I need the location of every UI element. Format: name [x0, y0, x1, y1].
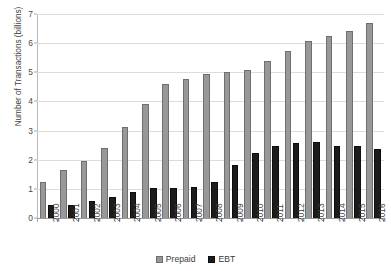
bar-prepaid-2013: [305, 41, 312, 219]
bar-group-2003: [98, 15, 118, 219]
bar-prepaid-2014: [326, 36, 333, 219]
bar-group-2016: [364, 15, 384, 219]
bar-prepaid-2010: [244, 70, 251, 220]
bar-group-2014: [323, 15, 343, 219]
bar-group-2013: [302, 15, 322, 219]
bar-group-2011: [262, 15, 282, 219]
x-tick-label-2006: 2006: [173, 203, 183, 222]
legend-entry-prepaid[interactable]: Prepaid: [156, 254, 196, 264]
legend-label-ebt: EBT: [218, 254, 235, 264]
bars-layer: [37, 15, 384, 219]
bar-group-2012: [282, 15, 302, 219]
prepaid-swatch-icon: [156, 256, 163, 263]
x-tick-label-2016: 2016: [377, 203, 387, 222]
legend-label-prepaid: Prepaid: [166, 254, 196, 264]
bar-group-2008: [200, 15, 220, 219]
x-tick-label-2000: 2000: [51, 203, 61, 222]
bar-prepaid-2003: [101, 148, 108, 219]
bar-group-2009: [221, 15, 241, 219]
chart-title: [28, 0, 368, 3]
x-tick-label-2008: 2008: [214, 203, 224, 222]
bar-prepaid-2011: [264, 61, 271, 219]
x-tick-label-2004: 2004: [132, 203, 142, 222]
x-tick-label-2012: 2012: [296, 203, 306, 222]
bar-prepaid-2001: [60, 170, 67, 219]
legend-entry-ebt[interactable]: EBT: [208, 254, 235, 264]
y-tick-label-3: 3: [28, 126, 33, 136]
bar-prepaid-2008: [203, 74, 210, 219]
x-axis-line: [37, 218, 384, 219]
bar-prepaid-2012: [285, 51, 292, 219]
y-tick-label-6: 6: [28, 38, 33, 48]
bar-prepaid-2016: [366, 23, 373, 219]
ebt-swatch-icon: [208, 256, 215, 263]
x-tick-label-2002: 2002: [92, 203, 102, 222]
bar-group-2000: [37, 15, 57, 219]
bar-group-2010: [241, 15, 261, 219]
y-tick-label-7: 7: [28, 9, 33, 19]
x-tick-label-2003: 2003: [112, 203, 122, 222]
bar-prepaid-2006: [162, 84, 169, 219]
y-tick-label-1: 1: [28, 184, 33, 194]
x-tick-label-2013: 2013: [316, 203, 326, 222]
bar-group-2002: [78, 15, 98, 219]
bar-prepaid-2015: [346, 31, 353, 219]
bar-prepaid-2002: [81, 161, 88, 219]
bar-prepaid-2000: [40, 182, 47, 219]
x-tick-label-2011: 2011: [275, 204, 285, 222]
y-tick-label-5: 5: [28, 67, 33, 77]
bar-group-2005: [139, 15, 159, 219]
x-tick-label-2005: 2005: [153, 203, 163, 222]
bar-group-2001: [57, 15, 77, 219]
chart-legend: PrepaidEBT: [0, 254, 391, 264]
bar-group-2015: [343, 15, 363, 219]
x-tick-label-2001: 2001: [71, 203, 81, 222]
y-tick-label-0: 0: [28, 213, 33, 223]
x-tick-label-2010: 2010: [255, 203, 265, 222]
bar-group-2007: [180, 15, 200, 219]
x-tick-label-2009: 2009: [235, 203, 245, 222]
bar-prepaid-2004: [122, 127, 129, 219]
y-tick-label-4: 4: [28, 96, 33, 106]
y-axis-title: Number of Transactions (billions): [14, 0, 23, 147]
bar-prepaid-2009: [224, 72, 231, 219]
x-tick-label-2007: 2007: [194, 203, 204, 222]
x-tick-label-2015: 2015: [357, 203, 367, 222]
bar-prepaid-2005: [142, 104, 149, 219]
y-tick-label-2: 2: [28, 155, 33, 165]
bar-prepaid-2007: [183, 79, 190, 219]
bar-chart: Number of Transactions (billions) 012345…: [0, 0, 391, 271]
x-tick-label-2014: 2014: [337, 203, 347, 222]
bar-group-2006: [159, 15, 179, 219]
x-axis-tick-labels: 2000200120022003200420052006200720082009…: [37, 222, 384, 252]
plot-area: 01234567: [37, 15, 384, 219]
bar-group-2004: [119, 15, 139, 219]
